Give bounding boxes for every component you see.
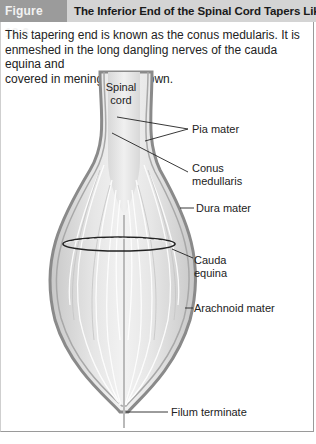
label-text: Spinal [101, 81, 141, 94]
label-text: cord [101, 94, 141, 107]
label-filum-terminate: Filum terminate [171, 406, 247, 419]
label-spinal-cord: Spinal cord [101, 81, 141, 107]
label-text: Cauda [194, 254, 227, 267]
label-conus-medullaris: Conus medullaris [192, 162, 242, 188]
label-text: Conus [192, 162, 242, 175]
label-text: equina [194, 267, 227, 280]
label-dura-mater: Dura mater [196, 202, 251, 215]
spinal-cord-illustration [0, 0, 316, 444]
label-pia-mater: Pia mater [192, 123, 239, 136]
label-cauda-equina: Cauda equina [194, 254, 227, 280]
label-arachnoid-mater: Arachnoid mater [194, 302, 275, 315]
label-text: medullaris [192, 175, 242, 188]
